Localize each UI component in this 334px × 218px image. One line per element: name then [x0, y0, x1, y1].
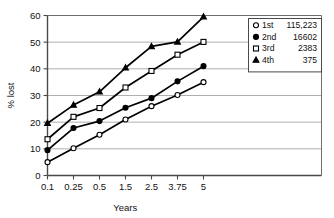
- series-3rd: [45, 39, 206, 141]
- data-point-2nd: [71, 126, 76, 131]
- data-point-2nd: [97, 119, 102, 124]
- y-tick-label: 20: [30, 117, 41, 128]
- data-point-4th: [149, 43, 155, 48]
- line-chart: 0102030405060 0.10.250.51.52.53.755 Year…: [0, 0, 334, 218]
- y-tick-label: 60: [30, 10, 41, 21]
- x-axis: 0.10.250.51.52.53.755: [41, 176, 322, 193]
- x-tick-label: 2.5: [145, 181, 158, 192]
- y-axis-title: % lost: [5, 82, 16, 108]
- legend-value-2nd: 16602: [293, 32, 317, 42]
- legend-label-2nd: 2nd: [262, 32, 277, 42]
- legend-label-4th: 4th: [262, 55, 274, 65]
- data-point-3rd: [97, 106, 102, 111]
- data-point-3rd: [201, 39, 206, 44]
- x-axis-title: Years: [113, 202, 137, 213]
- chart-container: 0102030405060 0.10.250.51.52.53.755 Year…: [0, 0, 334, 218]
- legend-label-3rd: 3rd: [262, 43, 275, 53]
- y-tick-label: 10: [30, 143, 41, 154]
- x-tick-label: 5: [201, 181, 206, 192]
- legend-marker-1st: [254, 23, 259, 28]
- data-point-3rd: [149, 68, 154, 73]
- data-point-1st: [71, 146, 76, 151]
- legend-value-3rd: 2383: [298, 43, 317, 53]
- x-tick-label: 0.1: [41, 181, 54, 192]
- data-point-4th: [71, 102, 77, 107]
- data-point-1st: [45, 160, 50, 165]
- y-tick-label: 0: [35, 170, 40, 181]
- data-point-1st: [97, 132, 102, 137]
- legend-marker-2nd: [254, 34, 259, 39]
- data-point-1st: [123, 117, 128, 122]
- data-point-3rd: [123, 85, 128, 90]
- x-tick-label: 0.5: [93, 181, 106, 192]
- data-point-1st: [175, 92, 180, 97]
- data-point-4th: [201, 14, 207, 19]
- series-group: [45, 14, 207, 165]
- data-point-2nd: [45, 148, 50, 153]
- data-point-3rd: [175, 52, 180, 57]
- data-point-3rd: [45, 137, 50, 142]
- data-point-1st: [149, 104, 154, 109]
- y-tick-label: 30: [30, 90, 41, 101]
- x-tick-label: 3.75: [168, 181, 187, 192]
- data-point-2nd: [175, 79, 180, 84]
- data-point-2nd: [149, 96, 154, 101]
- data-point-2nd: [123, 105, 128, 110]
- y-axis: 0102030405060: [30, 10, 48, 181]
- legend-value-4th: 375: [303, 55, 318, 65]
- data-point-1st: [201, 80, 206, 85]
- chart-legend: 1st115,2232nd166023rd23834th375: [249, 19, 322, 72]
- legend-marker-3rd: [254, 46, 259, 51]
- x-tick-label: 0.25: [64, 181, 83, 192]
- y-tick-label: 50: [30, 37, 41, 48]
- data-point-2nd: [201, 64, 206, 69]
- x-tick-label: 1.5: [119, 181, 132, 192]
- data-point-3rd: [71, 114, 76, 119]
- y-tick-label: 40: [30, 63, 41, 74]
- legend-value-1st: 115,223: [287, 20, 318, 30]
- legend-label-1st: 1st: [262, 20, 274, 30]
